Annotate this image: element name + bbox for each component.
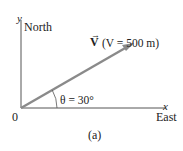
east-label: East [156, 111, 177, 123]
angle-arc [52, 90, 57, 108]
north-label: North [24, 21, 52, 33]
figure-caption: (a) [88, 129, 101, 141]
y-axis-label: y [17, 12, 22, 24]
origin-label: 0 [12, 111, 18, 123]
angle-label: θ = 30° [60, 94, 94, 106]
vector-symbol: →V [90, 36, 99, 48]
vector-magnitude-label: (V = 500 m) [102, 37, 159, 49]
vector-diagram: y North →V (V = 500 m) θ = 30° x East 0 … [0, 0, 183, 151]
